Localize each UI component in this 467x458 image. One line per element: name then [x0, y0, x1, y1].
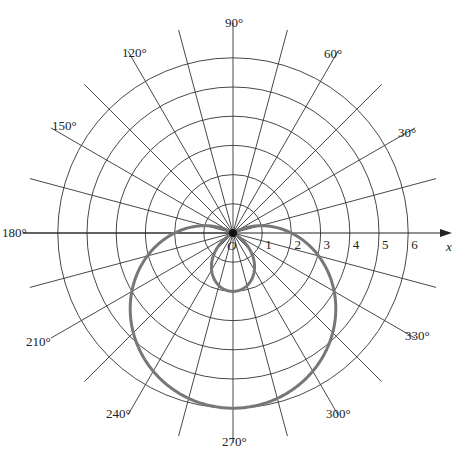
radial-tick-label: 5: [382, 237, 389, 252]
radial-tick-label: 6: [411, 237, 418, 252]
grid-ray: [51, 233, 233, 338]
grid-ray: [233, 30, 287, 233]
grid-ray: [84, 233, 233, 382]
polar-chart: 123456Ox30°60°90°120°150°180°210°240°270…: [0, 0, 467, 458]
radial-tick-label: 2: [294, 237, 301, 252]
grid-ray: [179, 30, 233, 233]
grid-ray: [128, 51, 233, 233]
polar-plot: 123456Ox30°60°90°120°150°180°210°240°270…: [0, 0, 467, 458]
origin-dot: [229, 229, 237, 237]
grid-ray: [233, 128, 415, 233]
radial-tick-label: 1: [265, 237, 272, 252]
angle-label: 90°: [225, 15, 243, 30]
angle-label: 240°: [106, 406, 131, 421]
radial-tick-label: 4: [353, 237, 360, 252]
angle-label: 150°: [52, 118, 77, 133]
grid-ray: [233, 233, 382, 382]
angle-label: 30°: [398, 125, 416, 140]
grid-ray: [84, 84, 233, 233]
grid-ray: [233, 51, 338, 233]
angle-label: 60°: [324, 46, 342, 61]
x-axis-label: x: [445, 239, 452, 254]
grid-ray: [51, 128, 233, 233]
angle-label: 300°: [326, 406, 351, 421]
angle-label: 270°: [222, 434, 247, 449]
angle-label: 120°: [122, 45, 147, 60]
angle-label: 180°: [2, 225, 27, 240]
x-axis-arrow-icon: [440, 229, 452, 237]
grid-ray: [233, 84, 382, 233]
grid-ray: [30, 233, 233, 287]
angle-label: 330°: [405, 328, 430, 343]
origin-label: O: [227, 238, 237, 253]
angle-label: 210°: [26, 334, 51, 349]
grid-ray: [233, 233, 436, 287]
radial-tick-label: 3: [324, 237, 331, 252]
